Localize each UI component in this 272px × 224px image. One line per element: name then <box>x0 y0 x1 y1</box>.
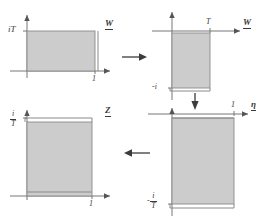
axis-arrowhead-right-icon <box>242 111 248 116</box>
panel-top-left <box>10 15 110 78</box>
axis-arrowhead-up-icon <box>24 15 29 21</box>
axis-arrowhead-up-icon <box>169 12 174 18</box>
shaded-domain-rect <box>172 118 234 204</box>
label-axis-vertical-bottom-left: i T <box>10 110 16 129</box>
arrow-down-icon <box>191 101 198 110</box>
label-tick-x-bottom-right: 1 <box>231 101 235 109</box>
fraction-i-over-T: i T <box>10 110 16 129</box>
fraction-numerator: i <box>10 110 16 118</box>
label-plane-bottom-right: η <box>251 100 256 111</box>
label-axis-vertical-top-left: iT <box>8 25 16 34</box>
label-tick-y-bottom-right: - i T <box>147 192 157 211</box>
axis-arrowhead-up-icon <box>24 110 29 116</box>
label-tick-x-top-left: 1 <box>92 75 96 83</box>
panel-bottom-left <box>10 110 110 200</box>
axis-arrowhead-right-icon <box>104 193 110 198</box>
fraction-numerator: i <box>150 192 156 200</box>
panel-bottom-right <box>148 108 248 216</box>
figure-canvas: iT 1 W T -i W i T 1 Z 1 - i T η <box>0 0 272 224</box>
panel-top-right <box>152 12 240 100</box>
fraction-denominator: T <box>10 120 16 128</box>
label-plane-bottom-left: Z <box>105 106 111 117</box>
axis-arrowhead-right-icon <box>234 28 240 33</box>
label-plane-top-right: W <box>243 18 251 29</box>
flow-arrow-top <box>122 53 147 61</box>
arrow-right-icon <box>139 53 147 61</box>
label-plane-top-left: W <box>105 19 113 30</box>
axis-arrowhead-right-icon <box>104 68 110 73</box>
shaded-domain-rect <box>172 33 210 88</box>
label-tick-x-top-right: T <box>206 18 210 26</box>
label-tick-x-bottom-left: 1 <box>89 200 93 208</box>
axis-arrowhead-up-icon <box>169 108 174 114</box>
label-tick-y-top-right: -i <box>152 83 157 91</box>
flow-arrow-right <box>191 93 198 110</box>
shaded-domain-rect <box>27 122 92 196</box>
arrow-left-icon <box>124 149 132 157</box>
diagram-svg <box>0 0 272 224</box>
shaded-domain-rect <box>27 31 95 71</box>
fraction-minus-i-over-T: i T <box>150 192 156 211</box>
flow-arrow-bottom <box>124 149 150 157</box>
fraction-denominator: T <box>150 202 156 210</box>
